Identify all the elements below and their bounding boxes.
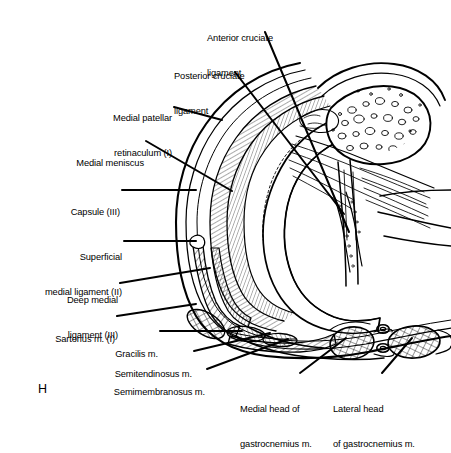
leader-sartorius: [117, 304, 196, 316]
label-line-2: ligament: [174, 106, 245, 118]
label-line-1: Superficial: [8, 252, 122, 264]
label-line-1: Lateral head: [333, 404, 415, 416]
label-line-1: Deep medial: [14, 295, 118, 307]
label-line-2: of gastrocnemius m.: [333, 439, 415, 451]
label-line-2: gastrocnemius m.: [240, 439, 312, 451]
label-line-1: Medial head of: [240, 404, 312, 416]
label-semimembranosus-muscle: Semimembranosus m.: [56, 364, 205, 410]
label-line-1: Medial patellar: [44, 113, 172, 125]
label-line-1: Posterior cruciate: [174, 71, 245, 83]
label-medial-meniscus: Medial meniscus: [16, 135, 144, 181]
label-capsule: Capsule (III): [16, 184, 120, 230]
label-line-1: Medial meniscus: [16, 158, 144, 170]
label-medial-head-gastrocnemius: Medial head of gastrocnemius m.: [240, 381, 312, 453]
sartorius-muscle-section: [182, 304, 229, 345]
label-line-1: Semimembranosus m.: [56, 387, 205, 399]
leader-deep-medial-ligament: [120, 268, 210, 283]
panel-letter: H: [38, 382, 47, 396]
label-line-1: Capsule (III): [16, 207, 120, 219]
label-lateral-head-gastrocnemius: Lateral head of gastrocnemius m.: [333, 381, 415, 453]
label-line-1: Anterior cruciate: [207, 33, 273, 45]
label-posterior-cruciate-ligament: Posterior cruciate ligament: [174, 48, 245, 129]
